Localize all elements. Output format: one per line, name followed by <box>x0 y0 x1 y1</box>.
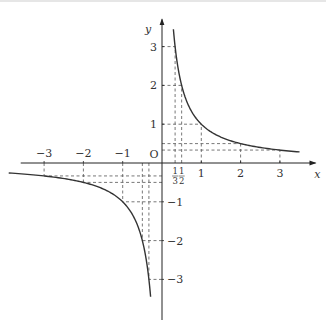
fraction-denominator: 2 <box>179 176 184 186</box>
x-tick-label: 2 <box>237 167 244 180</box>
y-tick-label: 1 <box>150 118 157 131</box>
fraction-denominator: 3 <box>172 176 177 186</box>
y-tick-label: −2 <box>167 235 183 248</box>
y-tick-label: −3 <box>167 273 183 286</box>
x-tick-label: −3 <box>36 147 52 160</box>
x-tick-label: −1 <box>115 147 131 160</box>
curve-branch-positive <box>173 29 299 152</box>
x-tick-label: −2 <box>75 147 91 160</box>
y-tick-label: −1 <box>167 196 183 209</box>
y-axis-label: y <box>144 23 152 36</box>
fraction-numerator: 1 <box>172 166 177 176</box>
x-tick-label: 1 <box>198 167 205 180</box>
function-plot: −3−2−11231312321−1−2−3xyO <box>0 0 326 320</box>
y-tick-label: 3 <box>150 41 157 54</box>
x-axis-label: x <box>314 168 321 181</box>
origin-label: O <box>149 148 158 161</box>
curve-branch-negative <box>9 173 151 297</box>
y-tick-label: 2 <box>150 79 157 92</box>
fraction-numerator: 1 <box>179 166 184 176</box>
x-tick-label: 3 <box>276 167 283 180</box>
